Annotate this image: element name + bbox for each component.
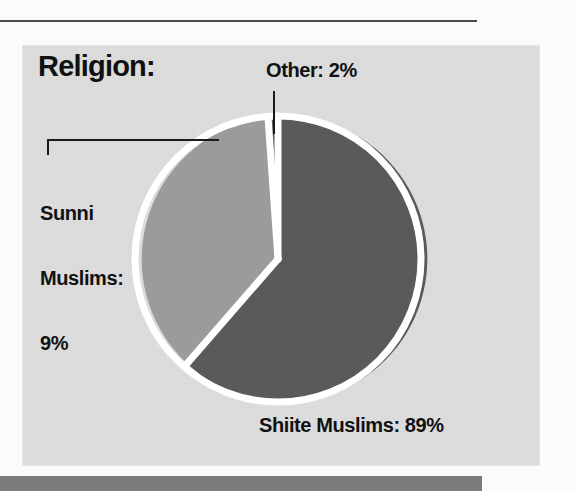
leader-line-sunni-horizontal bbox=[47, 139, 219, 141]
pie-label-shiite: Shiite Muslims: 89% bbox=[259, 415, 444, 435]
chart-title: Religion: bbox=[38, 52, 155, 81]
pie-label-sunni-line1: Sunni bbox=[40, 203, 123, 225]
pie-label-sunni: Sunni Muslims: 9% bbox=[40, 160, 123, 398]
pie-label-sunni-line2: Muslims: bbox=[40, 268, 123, 290]
pie-label-other: Other: 2% bbox=[266, 60, 357, 80]
leader-line-other-vertical bbox=[273, 91, 275, 134]
figure-root: Religion: Other: 2% Sunni Muslims: 9% Sh… bbox=[0, 0, 576, 491]
bottom-band bbox=[0, 476, 482, 491]
top-divider-rule bbox=[0, 20, 477, 22]
leader-line-sunni-vertical bbox=[47, 139, 49, 155]
pie-label-sunni-line3: 9% bbox=[40, 333, 123, 355]
